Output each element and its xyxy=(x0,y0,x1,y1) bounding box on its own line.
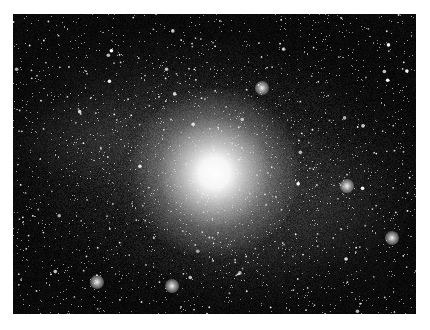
hii-region-bottom xyxy=(165,279,179,293)
hii-regions xyxy=(13,14,416,314)
galaxy-photo xyxy=(13,14,416,314)
hii-region-upper-right xyxy=(255,81,269,95)
hii-region-right xyxy=(340,179,354,193)
hii-region-lower-right xyxy=(385,231,399,245)
hii-region-lower-left xyxy=(90,275,104,289)
